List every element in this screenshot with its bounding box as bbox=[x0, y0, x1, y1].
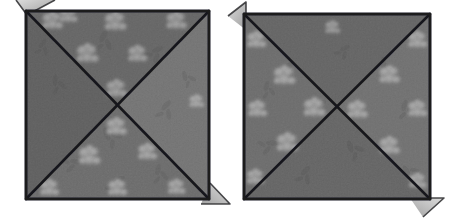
photo-canvas bbox=[0, 0, 458, 222]
napkin-fold-photograph bbox=[0, 0, 458, 222]
